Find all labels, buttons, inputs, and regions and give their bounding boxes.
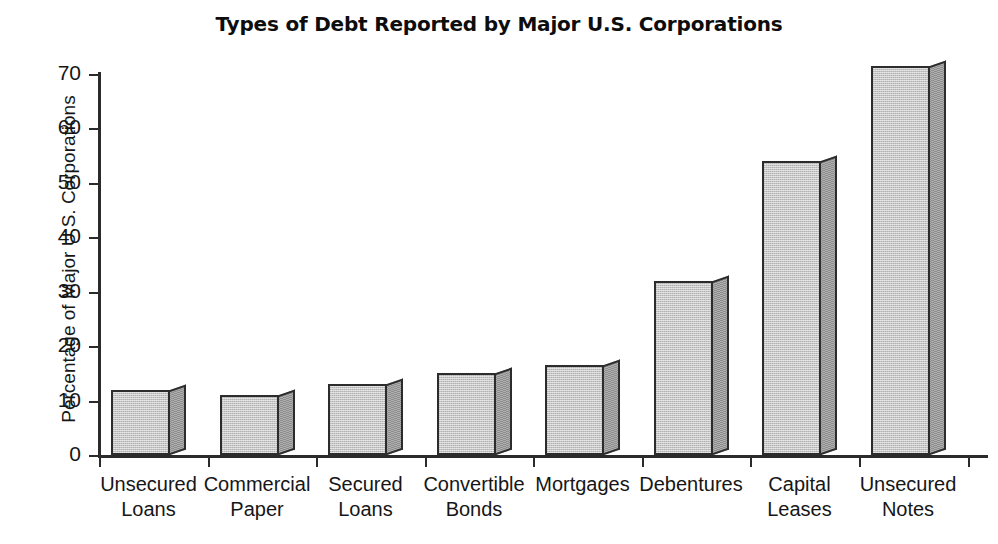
bar [111,390,170,455]
y-tick-label-0: 0 [41,442,81,466]
bar [328,384,387,455]
bar [871,66,930,455]
y-tick-label-30: 30 [41,279,81,303]
chart-title: Types of Debt Reported by Major U.S. Cor… [0,12,998,36]
bar-front-face [220,395,279,455]
bar-side-face [821,156,837,455]
bar-front-face [545,365,604,455]
y-tick-60: 60 [89,128,99,130]
y-tick-50: 50 [89,183,99,185]
x-category-label: Unsecured Notes [838,472,978,522]
bar-front-face [437,373,496,455]
bar-side-face [279,390,295,455]
y-tick-label-40: 40 [41,224,81,248]
x-tick [968,458,970,467]
bar-front-face [328,384,387,455]
y-tick-label-10: 10 [41,388,81,412]
bar-front-face [654,281,713,455]
bar-side-face [170,384,186,455]
bar-front-face [111,390,170,455]
x-tick [99,458,101,467]
bar-front-face [871,66,930,455]
x-tick [425,458,427,467]
y-tick-label-50: 50 [41,170,81,194]
x-tick [533,458,535,467]
bar-side-face [604,360,620,455]
y-tick-20: 20 [89,346,99,348]
x-tick [316,458,318,467]
y-tick-30: 30 [89,292,99,294]
bar-side-face [387,379,403,455]
y-tick-40: 40 [89,237,99,239]
bar [437,373,496,455]
bar [654,281,713,455]
plot-area: 010203040506070 [98,72,988,457]
x-axis-line [98,455,988,458]
bar-side-face [713,275,729,455]
bar-side-face [930,60,946,455]
bar-front-face [762,161,821,455]
bar-chart-figure: Types of Debt Reported by Major U.S. Cor… [0,0,998,544]
bar-side-face [496,368,512,455]
y-tick-70: 70 [89,74,99,76]
y-tick-0: 0 [89,455,99,457]
y-tick-label-70: 70 [41,61,81,85]
x-tick [859,458,861,467]
x-tick [642,458,644,467]
bar [545,365,604,455]
bar [220,395,279,455]
x-tick [750,458,752,467]
x-tick [208,458,210,467]
bar [762,161,821,455]
y-tick-label-60: 60 [41,115,81,139]
y-tick-label-20: 20 [41,333,81,357]
y-tick-10: 10 [89,401,99,403]
